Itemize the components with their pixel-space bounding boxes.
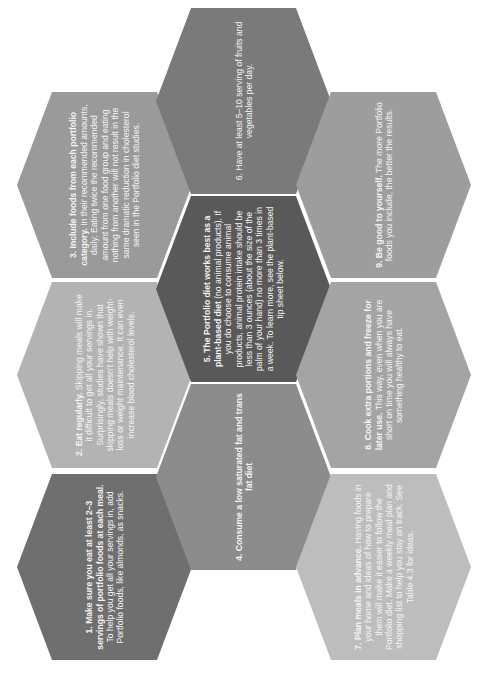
- tip-text-2: 2. Eat regularly. Skipping meals will ma…: [73, 291, 136, 459]
- tip-text-7: 7. Plan meals in advance. Having foods i…: [352, 483, 415, 651]
- tip-text-4: 4. Consume a low saturated fat and trans…: [233, 393, 254, 561]
- tip-hexagon-7: 7. Plan meals in advance. Having foods i…: [296, 474, 471, 660]
- tip-text-6: 6. Have at least 5–10 serving of fruits …: [233, 17, 254, 185]
- tip-text-9: 9. Be good to yourself. The more Portfol…: [373, 101, 394, 269]
- tip-hexagon-8: 8. Cook extra portions and freeze for la…: [296, 282, 471, 468]
- tip-hexagon-9: 9. Be good to yourself. The more Portfol…: [296, 92, 471, 278]
- tip-text-1: 1. Make sure you eat at least 2–3 servin…: [84, 483, 126, 651]
- tip-hexagon-4: 4. Consume a low saturated fat and trans…: [156, 384, 331, 570]
- tip-text-8: 8. Cook extra portions and freeze for la…: [363, 291, 405, 459]
- tip-text-5: 5. The Portfolio diet works best as a pl…: [202, 205, 286, 373]
- tip-text-3: 3. Include foods from each portfolio cat…: [68, 101, 141, 269]
